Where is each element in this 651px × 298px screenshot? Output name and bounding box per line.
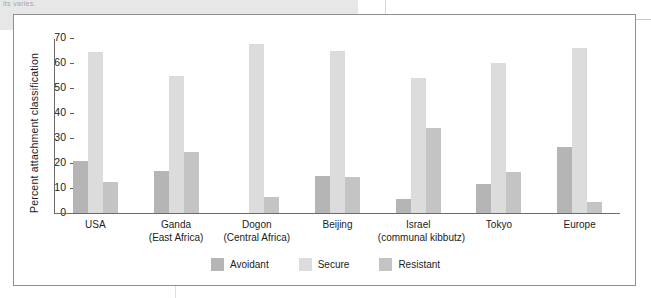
legend-label: Secure bbox=[318, 259, 350, 270]
category-name: Tokyo bbox=[486, 219, 512, 230]
x-axis-category-label: Israel(communal kibbutz) bbox=[378, 219, 459, 244]
cut-off-body-text: its varies. bbox=[3, 0, 36, 7]
figure-frame: Percent attachment classification 010203… bbox=[13, 14, 636, 286]
category-sublabel: (Central Africa) bbox=[216, 232, 297, 245]
bar-group bbox=[73, 38, 118, 213]
bar-chart: Percent attachment classification 010203… bbox=[14, 15, 637, 287]
category-name: Europe bbox=[564, 219, 596, 230]
bar-resistant bbox=[587, 202, 602, 213]
bar-avoidant bbox=[476, 184, 491, 213]
category-name: Ganda bbox=[161, 219, 191, 230]
x-axis-category-label: Dogon(Central Africa) bbox=[216, 219, 297, 244]
bar-resistant bbox=[426, 128, 441, 213]
bar-group bbox=[315, 38, 360, 213]
x-axis-line bbox=[54, 213, 620, 214]
bar-group bbox=[396, 38, 441, 213]
category-name: Dogon bbox=[242, 219, 271, 230]
bar-group bbox=[557, 38, 602, 213]
x-axis-category-label: USA bbox=[55, 219, 136, 232]
legend-label: Resistant bbox=[398, 259, 440, 270]
legend-item-avoidant: Avoidant bbox=[211, 258, 269, 271]
category-sublabel: (East Africa) bbox=[136, 232, 217, 245]
bar-avoidant bbox=[557, 147, 572, 213]
category-name: Israel bbox=[406, 219, 430, 230]
x-axis-category-label: Europe bbox=[539, 219, 620, 232]
bar-secure bbox=[249, 44, 264, 213]
bar-avoidant bbox=[154, 171, 169, 214]
x-axis-category-label: Tokyo bbox=[459, 219, 540, 232]
legend-label: Avoidant bbox=[230, 259, 269, 270]
x-axis-category-label: Ganda(East Africa) bbox=[136, 219, 217, 244]
category-name: USA bbox=[85, 219, 106, 230]
bar-secure bbox=[491, 63, 506, 213]
category-name: Beijing bbox=[322, 219, 352, 230]
bar-resistant bbox=[103, 182, 118, 213]
legend-swatch-resistant bbox=[379, 258, 392, 271]
bar-group bbox=[234, 38, 279, 213]
x-axis-category-label: Beijing bbox=[297, 219, 378, 232]
bar-avoidant bbox=[396, 199, 411, 213]
bar-avoidant bbox=[73, 161, 88, 214]
bar-group bbox=[476, 38, 521, 213]
bar-secure bbox=[169, 76, 184, 214]
bar-group bbox=[154, 38, 199, 213]
bar-secure bbox=[330, 51, 345, 214]
bar-resistant bbox=[345, 177, 360, 213]
bar-avoidant bbox=[315, 176, 330, 214]
category-sublabel: (communal kibbutz) bbox=[378, 232, 459, 245]
bar-secure bbox=[411, 78, 426, 213]
bar-resistant bbox=[184, 152, 199, 213]
legend-swatch-secure bbox=[299, 258, 312, 271]
bar-secure bbox=[572, 48, 587, 213]
bar-resistant bbox=[264, 197, 279, 213]
bar-secure bbox=[88, 52, 103, 213]
legend-swatch-avoidant bbox=[211, 258, 224, 271]
chart-legend: AvoidantSecureResistant bbox=[14, 258, 637, 271]
bars-layer bbox=[55, 38, 620, 213]
bar-resistant bbox=[506, 172, 521, 213]
legend-item-secure: Secure bbox=[299, 258, 350, 271]
legend-item-resistant: Resistant bbox=[379, 258, 440, 271]
